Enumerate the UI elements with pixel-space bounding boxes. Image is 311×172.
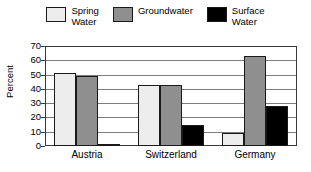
legend-label: Groundwater [138, 6, 193, 17]
bar-group [45, 46, 129, 146]
y-axis-tick-label: 30 [13, 98, 41, 108]
y-axis-tick-label: 10 [13, 127, 41, 137]
x-axis-tick-label: Germany [213, 149, 297, 161]
legend-swatch-icon [113, 7, 133, 22]
y-axis-tick-label: 0 [13, 141, 41, 151]
bar[interactable] [98, 144, 120, 146]
bar[interactable] [138, 85, 160, 146]
bar[interactable] [266, 106, 288, 146]
bar[interactable] [182, 125, 204, 146]
legend-label: Surface Water [232, 6, 265, 27]
y-axis-tick-label: 70 [13, 41, 41, 51]
y-axis-tick-label: 50 [13, 70, 41, 80]
bar[interactable] [244, 56, 266, 146]
bar[interactable] [76, 76, 98, 146]
bars-layer [45, 46, 297, 146]
legend-entry[interactable]: Groundwater [113, 6, 193, 22]
bar-group [129, 46, 213, 146]
bar[interactable] [222, 133, 244, 146]
y-axis-tick-label: 20 [13, 112, 41, 122]
chart-legend: Spring WaterGroundwaterSurface Water [0, 6, 311, 36]
bar[interactable] [160, 85, 182, 146]
legend-swatch-icon [46, 7, 66, 22]
bar-chart: Spring WaterGroundwaterSurface Water Per… [0, 0, 311, 172]
y-axis-tick-mark [41, 146, 45, 147]
legend-entry[interactable]: Surface Water [207, 6, 265, 27]
legend-entry[interactable]: Spring Water [46, 6, 98, 27]
y-axis-tick-label: 60 [13, 55, 41, 65]
y-axis-tick-label: 40 [13, 84, 41, 94]
y-axis-tick-labels: 010203040506070 [13, 46, 41, 146]
legend-label: Spring Water [71, 6, 98, 27]
x-axis-tick-labels: AustriaSwitzerlandGermany [45, 149, 297, 165]
bar[interactable] [54, 73, 76, 146]
x-axis-tick-label: Switzerland [129, 149, 213, 161]
legend-swatch-icon [207, 7, 227, 22]
x-axis-tick-label: Austria [45, 149, 129, 161]
bar-group [213, 46, 297, 146]
